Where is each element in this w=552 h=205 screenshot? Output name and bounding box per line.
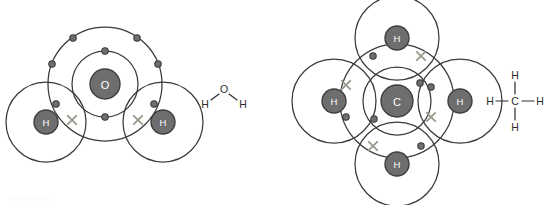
water-structural-formula-atom-H-1: H bbox=[201, 98, 209, 110]
electron-dot-methane-inner-1 bbox=[371, 116, 377, 122]
methane-structural-formula-atom-H-2: H bbox=[511, 121, 519, 133]
methane-hydrogen-right-nucleus: H bbox=[448, 89, 472, 113]
methane-structural-formula-atom-C-0: C bbox=[511, 95, 519, 107]
electron-dot-methane-outer-2 bbox=[343, 114, 349, 120]
water-structural-formula-atom-O-0: O bbox=[220, 83, 228, 95]
molecular-diagrams-svg: HHOOHHHHHHCCHHHH bbox=[0, 0, 552, 205]
electron-dot-water-inner-1 bbox=[102, 114, 108, 120]
water-structural-formula-atom-H-2: H bbox=[239, 98, 247, 110]
methane-carbon-nucleus: C bbox=[381, 85, 413, 117]
electron-cross-methane-bond-3 bbox=[427, 113, 435, 121]
electron-dot-water-inner-0 bbox=[102, 48, 108, 54]
water-structural-formula-bond-0 bbox=[211, 94, 219, 100]
methane-hydrogen-right-nucleus-label: H bbox=[457, 96, 464, 107]
methane-hydrogen-left-nucleus: H bbox=[322, 89, 346, 113]
electron-dot-water-outer-3 bbox=[155, 61, 161, 67]
electron-dot-methane-inner-0 bbox=[417, 80, 423, 86]
diagram-canvas: HHOOHHHHHHCCHHHH bbox=[0, 0, 552, 205]
water-molecule-diagram: HHOOHH bbox=[6, 27, 247, 162]
water-structural-formula: OHH bbox=[201, 83, 247, 110]
methane-hydrogen-left-nucleus-label: H bbox=[331, 96, 338, 107]
methane-structural-formula-atom-H-1: H bbox=[511, 69, 519, 81]
electron-dot-water-outer-1 bbox=[134, 35, 140, 41]
electron-cross-methane-bond-1 bbox=[369, 142, 377, 150]
water-hydrogen-left-nucleus-label: H bbox=[43, 117, 50, 128]
methane-hydrogen-bottom-nucleus: H bbox=[385, 152, 409, 176]
water-hydrogen-right-nucleus: H bbox=[151, 110, 175, 134]
water-oxygen-nucleus: O bbox=[90, 69, 120, 99]
water-structural-formula-bond-1 bbox=[229, 94, 237, 100]
methane-carbon-nucleus-label: C bbox=[393, 96, 401, 108]
water-oxygen-nucleus-label: O bbox=[101, 79, 110, 91]
electron-dot-water-outer-4 bbox=[53, 101, 59, 107]
electron-cross-methane-bond-2 bbox=[342, 81, 350, 89]
methane-structural-formula-atom-H-3: H bbox=[486, 95, 494, 107]
methane-hydrogen-top-nucleus: H bbox=[385, 26, 409, 50]
methane-hydrogen-bottom-nucleus-label: H bbox=[394, 159, 401, 170]
methane-molecule-diagram: HHHHCCHHHH bbox=[292, 0, 544, 205]
electron-cross-methane-bond-0 bbox=[417, 52, 425, 60]
water-hydrogen-right-nucleus-label: H bbox=[160, 117, 167, 128]
electron-dot-methane-outer-0 bbox=[370, 53, 376, 59]
scan-artifact bbox=[8, 196, 54, 201]
methane-structural-formula-atom-H-4: H bbox=[536, 95, 544, 107]
electron-dot-water-outer-2 bbox=[49, 61, 55, 67]
water-hydrogen-left-nucleus: H bbox=[34, 110, 58, 134]
electron-dot-water-outer-5 bbox=[151, 101, 157, 107]
electron-dot-methane-outer-1 bbox=[418, 143, 424, 149]
electron-dot-methane-outer-3 bbox=[428, 84, 434, 90]
electron-dot-water-outer-0 bbox=[70, 35, 76, 41]
electron-cross-water-bond-0 bbox=[68, 116, 76, 124]
electron-cross-water-bond-1 bbox=[134, 116, 142, 124]
methane-hydrogen-top-nucleus-label: H bbox=[394, 33, 401, 44]
